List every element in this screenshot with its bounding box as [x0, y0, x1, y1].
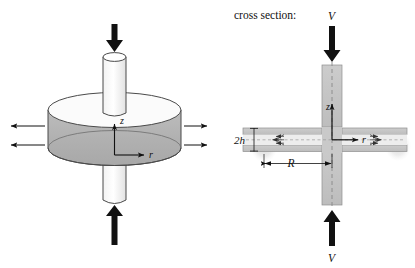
left-outflow-arrows	[11, 126, 45, 145]
lower-plate-left	[243, 145, 322, 152]
perspective-axis-r-label: r	[149, 149, 153, 160]
bottom-rod	[103, 160, 126, 204]
velocity-top-label: V	[328, 10, 337, 22]
bottom-velocity-arrow	[324, 210, 341, 246]
top-velocity-arrow	[324, 26, 341, 62]
figure-squeeze-flow: z r cross section: V	[0, 0, 415, 268]
velocity-bottom-label: V	[328, 252, 337, 264]
cross-section-caption: cross section:	[234, 9, 296, 21]
right-outflow-arrows	[184, 126, 207, 145]
gap-height-label: 2h	[234, 134, 246, 146]
figure-canvas: z r cross section: V	[0, 0, 415, 268]
bottom-force-arrow	[106, 205, 123, 245]
lower-plate-right	[342, 145, 407, 152]
top-rod	[103, 53, 126, 116]
radius-label: R	[286, 157, 294, 169]
upper-plate-right	[342, 128, 407, 135]
cross-section-axis-z-label: z	[325, 101, 330, 112]
cross-section-panel: cross section: V	[234, 9, 411, 264]
cross-section-axis-r-label: r	[362, 134, 366, 145]
perspective-axis-z-label: z	[119, 115, 124, 126]
upper-plate-left	[243, 128, 322, 135]
perspective-view-panel: z r	[11, 24, 207, 245]
top-force-arrow	[106, 24, 123, 52]
